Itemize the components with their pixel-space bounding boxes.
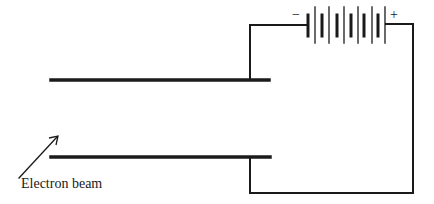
wire-top-plate-to-battery-negative [250,25,307,80]
battery-icon [308,7,385,43]
battery-negative-sign: − [292,7,300,22]
battery-positive-sign: + [390,7,398,22]
circuit-diagram: − + Electron beam [0,0,434,204]
electron-beam-label: Electron beam [21,176,102,191]
wire-battery-positive-to-bottom-plate [250,24,413,193]
